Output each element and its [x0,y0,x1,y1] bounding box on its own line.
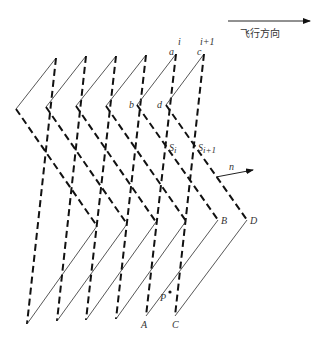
dashed-vertical-edge [27,58,56,324]
label-n: n [229,161,234,172]
dashed-vertical-edge [175,54,204,316]
solid-upper-edge [106,55,146,106]
scan-unit [166,54,247,316]
label-b: b [129,99,134,110]
label-D: D [249,215,258,226]
dashed-diagonal-edge [16,109,97,226]
solid-lower-edge [175,220,247,316]
label-c: c [197,46,202,57]
point-p-dot [168,290,171,293]
dashed-vertical-edge [116,55,146,319]
dashed-diagonal-edge [106,106,186,221]
label-B: B [221,215,227,226]
label-P: P [159,292,166,303]
dashed-vertical-edge [86,56,116,320]
scan-unit [137,54,218,316]
solid-lower-edge [116,221,186,319]
scan-units [16,54,247,324]
label-C: C [172,319,179,330]
label-A: A [140,319,148,330]
dashed-vertical-edge [57,56,86,321]
label-a: a [169,46,174,57]
dashed-diagonal-edge [46,107,127,224]
scan-unit [46,56,127,321]
scan-unit [16,58,97,324]
solid-upper-edge [76,56,116,106]
label-i-plus-1: i+1 [200,36,215,47]
dashed-diagonal-edge [76,106,156,222]
label-d: d [157,99,163,110]
dashed-vertical-edge [146,54,176,316]
solid-upper-edge [166,54,204,105]
flight-direction-label: 飞行方向 [240,27,280,39]
scan-path-diagram: 飞行方向 i i+1 a c b d Si Si+1 n B D A C P [0,0,319,342]
solid-lower-edge [86,222,156,320]
solid-lower-edge [146,220,218,316]
label-i: i [178,36,181,47]
normal-vector-arrow [216,170,253,177]
